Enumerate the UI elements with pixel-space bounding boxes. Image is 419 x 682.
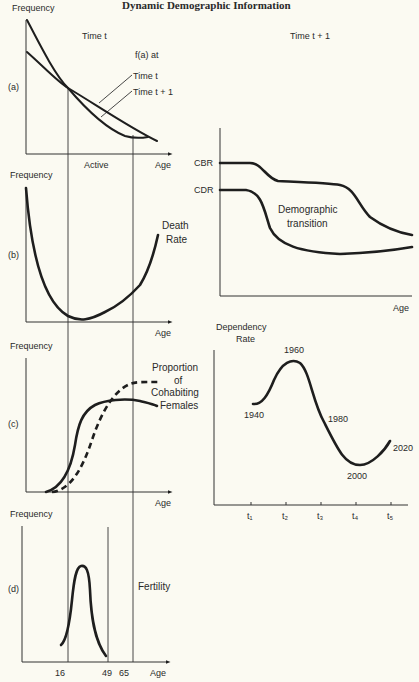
death-rate-label-line2: Rate bbox=[166, 234, 188, 245]
tick-16: 16 bbox=[55, 668, 65, 678]
cohabiting-label-line1: Proportion bbox=[152, 362, 198, 373]
dependency-tick-label: t₄ bbox=[352, 511, 359, 521]
transition-annotation-line1: Demographic bbox=[278, 204, 337, 215]
panel-c-xlabel: Age bbox=[155, 498, 171, 508]
transition-annotation-line2: transition bbox=[287, 218, 328, 229]
legend-leader-time-t1 bbox=[101, 91, 132, 117]
point-label-2000: 2000 bbox=[347, 471, 367, 481]
tick-65: 65 bbox=[119, 668, 129, 678]
point-label-1940: 1940 bbox=[244, 410, 264, 420]
panel-b: Frequency (b) Age Death Rate bbox=[8, 170, 189, 338]
curve-dependency-rate bbox=[253, 361, 390, 465]
cdr-label: CDR bbox=[194, 185, 214, 195]
panel-b-label: (b) bbox=[8, 250, 19, 260]
dependency-chart: Dependency Rate t₁t₂t₃t₄t₅ 1940 1960 198… bbox=[214, 322, 413, 521]
dependency-tick-label: t₃ bbox=[317, 511, 324, 521]
panel-a-interval-label: Active bbox=[84, 160, 109, 170]
curve-death-rate bbox=[26, 188, 158, 319]
panel-a: Frequency (a) Age Time t f(a) at Time t … bbox=[8, 3, 173, 170]
panel-d-xlabel: Age bbox=[150, 668, 166, 678]
death-rate-label-line1: Death bbox=[162, 220, 189, 231]
panel-a-legend-title: f(a) at bbox=[135, 50, 159, 60]
legend-item-time-t1: Time t + 1 bbox=[133, 87, 173, 97]
figure-title: Dynamic Demographic Information bbox=[122, 0, 291, 11]
panel-a-xlabel: Age bbox=[155, 160, 171, 170]
dependency-ylabel-line2: Rate bbox=[236, 334, 255, 344]
fertility-label: Fertility bbox=[138, 581, 170, 592]
panel-b-xlabel: Age bbox=[155, 328, 171, 338]
panel-a-label: (a) bbox=[8, 82, 19, 92]
transition-xlabel: Age bbox=[393, 303, 409, 313]
point-label-1960: 1960 bbox=[284, 345, 304, 355]
legend-item-time-t: Time t bbox=[133, 71, 158, 81]
transition-header: Time t + 1 bbox=[290, 31, 330, 41]
point-label-2020: 2020 bbox=[393, 443, 413, 453]
dependency-tick-label: t₅ bbox=[387, 511, 394, 521]
curve-cohabiting-time-t bbox=[46, 400, 157, 492]
cohabiting-label-line3: Cohabiting bbox=[151, 387, 199, 398]
panel-b-ylabel: Frequency bbox=[10, 170, 53, 180]
panel-c: Frequency (c) Age Proportion of Cohabiti… bbox=[8, 341, 199, 508]
cohabiting-label-line4: Females bbox=[160, 400, 198, 411]
dependency-tick-label: t₂ bbox=[282, 511, 289, 521]
panel-a-ylabel: Frequency bbox=[12, 3, 55, 13]
point-label-1980: 1980 bbox=[328, 414, 348, 424]
panel-d-label: (d) bbox=[8, 584, 19, 594]
panel-a-header: Time t bbox=[82, 31, 107, 41]
tick-49: 49 bbox=[102, 668, 112, 678]
dependency-ylabel-line1: Dependency bbox=[216, 322, 267, 332]
cbr-label: CBR bbox=[194, 158, 214, 168]
dependency-tick-label: t₁ bbox=[247, 511, 253, 521]
legend-leader-time-t bbox=[99, 75, 132, 103]
panel-c-ylabel: Frequency bbox=[10, 341, 53, 351]
transition-chart: Time t + 1 Age CBR CDR Demographic trans… bbox=[194, 31, 412, 313]
panel-d: Frequency (d) 16 49 65 Age Fertility bbox=[8, 509, 170, 678]
cohabiting-label-line2: of bbox=[174, 375, 183, 386]
demographic-diagram: Dynamic Demographic Information Frequenc… bbox=[0, 0, 419, 682]
panel-c-label: (c) bbox=[8, 419, 19, 429]
panel-d-ylabel: Frequency bbox=[10, 509, 53, 519]
